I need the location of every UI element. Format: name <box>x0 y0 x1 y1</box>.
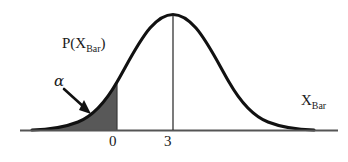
density-label-subscript: Bar <box>86 43 100 54</box>
density-axis-label: P(XBar) <box>62 36 105 51</box>
distribution-plot <box>0 0 348 162</box>
x-axis-label-main: X <box>301 92 312 108</box>
alpha-symbol-label: α <box>54 74 64 89</box>
density-label-close: ) <box>100 35 105 51</box>
x-tick-label-3: 3 <box>164 134 172 149</box>
normal-distribution-figure: P(XBar) α XBar 0 3 <box>0 0 348 162</box>
x-axis-label-subscript: Bar <box>312 100 326 111</box>
alpha-pointer-arrow <box>64 89 91 114</box>
x-axis-label: XBar <box>301 93 326 108</box>
density-label-main: P(X <box>62 35 86 51</box>
x-tick-label-0: 0 <box>109 134 117 149</box>
